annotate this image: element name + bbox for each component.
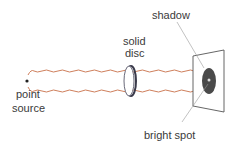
- wave-upper: [28, 70, 194, 75]
- label-disc-1: solid: [123, 35, 146, 47]
- bright-spot: [208, 79, 211, 82]
- poisson-spot-diagram: shadow solid disc point source bright sp…: [0, 0, 241, 152]
- point-source-dot: [25, 79, 28, 82]
- solid-disc: [124, 66, 136, 96]
- wave-lower: [28, 87, 194, 92]
- label-shadow: shadow: [152, 9, 190, 21]
- label-disc-2: disc: [125, 47, 145, 59]
- label-source-1: point: [16, 88, 40, 100]
- shadow-leader: [177, 22, 204, 68]
- label-source-2: source: [12, 102, 45, 114]
- label-bright-spot: bright spot: [144, 129, 195, 141]
